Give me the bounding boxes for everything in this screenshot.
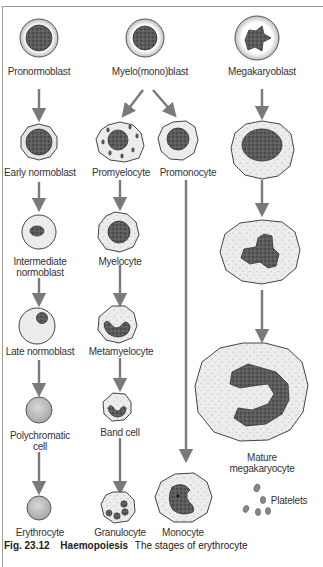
promonocyte-cell: [158, 121, 198, 160]
mature-megakaryocyte-cell: [195, 343, 308, 441]
label-promyelocyte: Promyelocyte: [92, 167, 150, 178]
figure-caption: Fig. 23.12 Haemopoiesis The stages of er…: [4, 540, 248, 551]
label-mature-megakaryocyte-line2: megakaryocyte: [229, 463, 294, 474]
label-polychromatic-cell-line2: cell: [33, 441, 47, 452]
promyelocyte-cell: [96, 122, 144, 162]
megakaryocyte-intermediate-cell: [220, 220, 300, 284]
label-granulocyte: Granulocyte: [94, 527, 146, 538]
granulocyte-cell: [101, 492, 135, 523]
label-promonocyte: Promonocyte: [160, 167, 217, 178]
band-cell: [103, 393, 131, 421]
erythrocyte-cell: [27, 496, 51, 520]
label-metamyelocyte: Metamyelocyte: [89, 346, 154, 357]
label-myelomonoblast: Myelo(mono)blast: [112, 66, 188, 77]
figure-title: Haemopoiesis: [60, 540, 128, 551]
figure-caption-text: The stages of erythrocyte: [135, 540, 248, 551]
label-intermediate-normoblast-line2: normoblast: [16, 267, 63, 278]
promegakaryocyte-cell: [231, 121, 294, 179]
polychromatic-cell: [26, 397, 52, 423]
label-erythrocyte: Erythrocyte: [16, 527, 64, 538]
label-myelocyte: Myelocyte: [98, 256, 141, 267]
figure-number: Fig. 23.12: [4, 540, 50, 551]
pronormoblast-cell: [20, 19, 58, 57]
myelomonoblast-cell: [126, 19, 164, 57]
label-mature-megakaryocyte-line1: Mature: [247, 452, 277, 463]
platelets-group: [242, 483, 270, 515]
arrow: [153, 90, 172, 112]
metamyelocyte-cell: [98, 306, 137, 343]
monocyte-cell: [155, 473, 212, 522]
label-megakaryoblast: Megakaryoblast: [228, 66, 296, 77]
label-polychromatic-cell-line1: Polychromatic: [10, 430, 70, 441]
label-platelets: Platelets: [271, 495, 308, 506]
label-late-normoblast: Late normoblast: [6, 346, 75, 357]
late-normoblast-cell: [19, 308, 55, 344]
early-normoblast-cell: [21, 124, 57, 160]
arrow: [126, 90, 143, 112]
myelocyte-cell: [98, 212, 139, 252]
label-pronormoblast: Pronormoblast: [8, 66, 70, 77]
megakaryoblast-cell: [235, 16, 279, 60]
label-intermediate-normoblast-line1: Intermediate: [13, 256, 66, 267]
intermediate-normoblast-cell: [22, 215, 56, 249]
label-early-normoblast: Early normoblast: [4, 167, 76, 178]
label-monocyte: Monocyte: [162, 527, 204, 538]
label-band-cell: Band cell: [100, 427, 139, 438]
